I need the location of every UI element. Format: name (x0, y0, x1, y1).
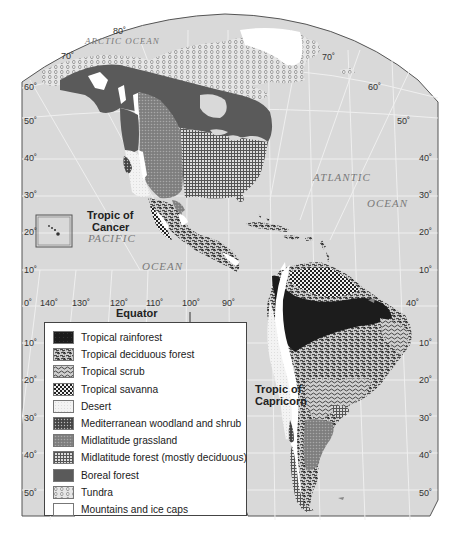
legend-item-tropical-rainforest: Tropical rainforest (53, 329, 246, 346)
lat-right-10s: 10˚ (419, 338, 432, 348)
legend-item-tropical-scrub: Tropical scrub (53, 363, 246, 380)
tropic-of-cancer-label-2: Cancer (92, 221, 130, 233)
legend-item-midlatitude-forest: Midlatitude forest (mostly deciduous) (53, 449, 246, 466)
atlantic-ocean-label-2: OCEAN (367, 197, 408, 209)
lon-label-140: 140˚ (40, 298, 58, 308)
legend-item-boreal-forest: Boreal forest (53, 467, 246, 484)
lat-left-60n: 60˚ (24, 82, 37, 92)
legend-label: Mountains and ice caps (81, 504, 188, 515)
legend-label: Desert (81, 401, 111, 412)
legend-item-tropical-deciduous-forest: Tropical deciduous forest (53, 346, 246, 363)
lat-right-40n: 40˚ (419, 153, 432, 163)
lat-right-30n: 30˚ (419, 190, 432, 200)
pacific-ocean-label-1: PACIFIC (87, 232, 136, 244)
lon-label-80-top: 80˚ (113, 26, 126, 36)
lat-left-30s: 30˚ (24, 413, 37, 423)
desert-swatch-icon (53, 400, 74, 413)
lat-left-50s: 50˚ (24, 488, 37, 498)
lon-label-70-top-left: 70˚ (61, 51, 74, 61)
boreal-swatch-icon (53, 469, 74, 482)
lat-right-30s: 30˚ (419, 413, 432, 423)
lat-right-20n: 20˚ (419, 227, 432, 237)
lat-left-20n: 20˚ (24, 227, 37, 237)
lat-left-30n: 30˚ (24, 190, 37, 200)
legend-label: Tropical scrub (81, 366, 145, 377)
tropic-of-capricorn-label-2: Capricorn (255, 395, 307, 407)
tropic-of-cancer-label-1: Tropic of (87, 209, 134, 221)
legend-label: Midlatitude grassland (81, 435, 177, 446)
lon-label-100: 100˚ (182, 298, 200, 308)
legend-label: Tropical rainforest (81, 332, 162, 343)
tundra-swatch-icon (53, 486, 74, 499)
midlatitude-forest-swatch-icon (53, 451, 74, 464)
lon-label-130: 130˚ (72, 298, 90, 308)
legend-item-desert: Desert (53, 398, 246, 415)
legend-label: Mediterranean woodland and shrub (81, 418, 241, 429)
lat-left-20s: 20˚ (24, 375, 37, 385)
map-legend: Tropical rainforest Tropical deciduous f… (44, 322, 247, 516)
lat-left-10n: 10˚ (24, 265, 37, 275)
lat-left-40n: 40˚ (24, 153, 37, 163)
legend-label: Boreal forest (81, 470, 139, 481)
rainforest-swatch-icon (53, 331, 74, 344)
arctic-ocean-label: ARCTIC OCEAN (84, 36, 160, 46)
lon-label-40: 40˚ (406, 298, 419, 308)
lat-right-40s: 40˚ (419, 450, 432, 460)
legend-item-tundra: Tundra (53, 484, 246, 501)
equator-label: Equator (116, 307, 158, 319)
legend-label: Midlatitude forest (mostly deciduous) (81, 452, 247, 463)
lat-left-40s: 40˚ (24, 450, 37, 460)
lat-right-20s: 20˚ (419, 375, 432, 385)
tropical-savanna-swatch-icon (53, 383, 74, 396)
legend-label: Tundra (81, 487, 113, 498)
pacific-ocean-label-2: OCEAN (142, 260, 183, 272)
legend-item-tropical-savanna: Tropical savanna (53, 381, 246, 398)
legend-label: Tropical savanna (81, 384, 158, 395)
lon-label-70-top-right: 70˚ (322, 52, 335, 62)
lat-left-10s: 10˚ (24, 338, 37, 348)
lon-label-90: 90˚ (222, 298, 235, 308)
atlantic-ocean-label-1: ATLANTIC (312, 171, 371, 183)
legend-item-midlatitude-grassland: Midlatitude grassland (53, 432, 246, 449)
lat-right-10n: 10˚ (419, 265, 432, 275)
mountains-swatch-icon (53, 503, 74, 516)
lat-right-60n: 60˚ (368, 82, 381, 92)
lon-label-110: 110˚ (146, 298, 163, 308)
legend-label: Tropical deciduous forest (81, 349, 194, 360)
tropical-scrub-swatch-icon (53, 365, 74, 378)
tropical-deciduous-swatch-icon (53, 348, 74, 361)
lat-left-50n: 50˚ (24, 116, 37, 126)
tropic-of-capricorn-label-1: Tropic of (255, 383, 302, 395)
lat-right-50n: 50˚ (397, 116, 410, 126)
legend-item-mountains: Mountains and ice caps (53, 501, 246, 518)
grassland-swatch-icon (53, 434, 74, 447)
lat-left-0: 0˚ (24, 298, 32, 308)
legend-item-mediterranean: Mediterranean woodland and shrub (53, 415, 246, 432)
lon-label-120: 120˚ (110, 298, 128, 308)
lat-right-50s: 50˚ (419, 488, 432, 498)
mediterranean-swatch-icon (53, 417, 74, 430)
